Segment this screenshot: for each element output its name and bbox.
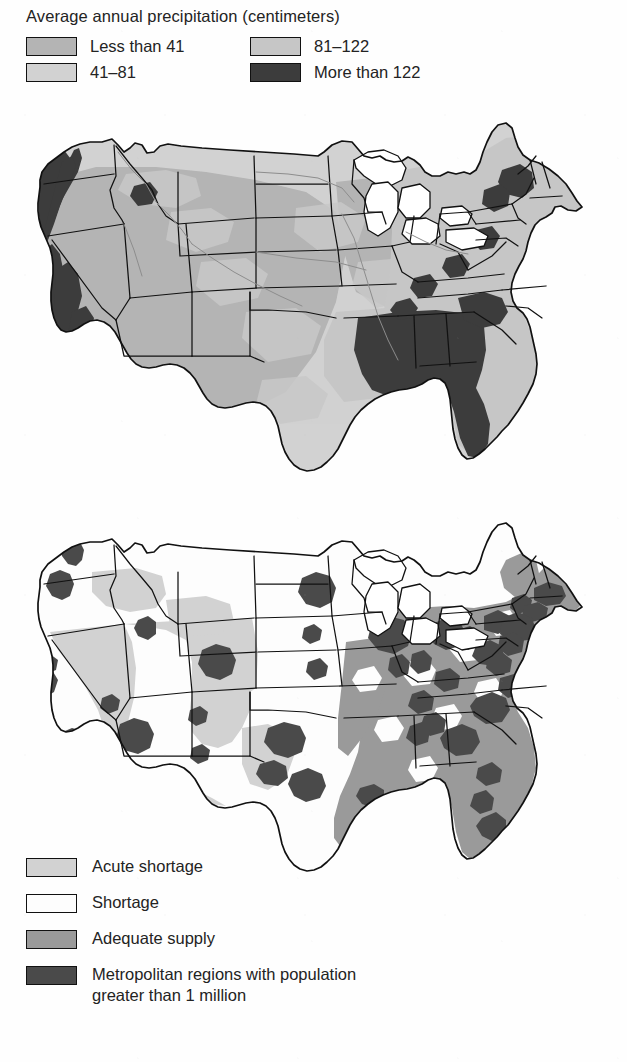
swatch-less-than-41	[26, 37, 77, 56]
precipitation-and-water-supply-figure: Average annual precipitation (centimeter…	[0, 0, 627, 1062]
legend-item-adequate-supply: Adequate supply	[26, 928, 586, 949]
precipitation-map	[6, 112, 621, 494]
legend-item-more-than-122: More than 122	[250, 61, 420, 83]
swatch-adequate-supply	[26, 930, 77, 949]
legend-label-metropolitan-regions: Metropolitan regions with population gre…	[92, 964, 356, 1006]
legend-label-81-122: 81–122	[314, 37, 369, 56]
precipitation-legend: Average annual precipitation (centimeter…	[26, 6, 546, 85]
legend-item-81-122: 81–122	[250, 35, 369, 57]
water-supply-map-body	[6, 512, 621, 894]
legend-label-41-81: 41–81	[90, 63, 136, 82]
swatch-metropolitan-regions	[26, 966, 77, 985]
legend-item-less-than-41: Less than 41	[26, 35, 185, 57]
legend-item-shortage: Shortage	[26, 892, 586, 913]
legend-label-adequate-supply: Adequate supply	[92, 928, 215, 949]
water-supply-legend: Acute shortage Shortage Adequate supply …	[26, 856, 586, 1006]
legend-item-metropolitan-regions: Metropolitan regions with population gre…	[26, 964, 586, 1006]
legend-item-acute-shortage: Acute shortage	[26, 856, 586, 877]
precipitation-legend-swatches: Less than 41 41–81 81–122 More than 122	[26, 35, 546, 85]
precipitation-legend-title: Average annual precipitation (centimeter…	[26, 6, 546, 26]
swatch-shortage	[26, 894, 77, 913]
legend-label-more-than-122: More than 122	[314, 63, 420, 82]
legend-label-acute-shortage: Acute shortage	[92, 856, 203, 877]
legend-item-41-81: 41–81	[26, 61, 136, 83]
swatch-81-122	[250, 37, 301, 56]
swatch-acute-shortage	[26, 858, 77, 877]
swatch-more-than-122	[250, 63, 301, 82]
precipitation-map-body	[6, 112, 621, 494]
swatch-41-81	[26, 63, 77, 82]
legend-label-shortage: Shortage	[92, 892, 159, 913]
water-supply-map	[6, 512, 621, 894]
legend-label-less-than-41: Less than 41	[90, 37, 185, 56]
